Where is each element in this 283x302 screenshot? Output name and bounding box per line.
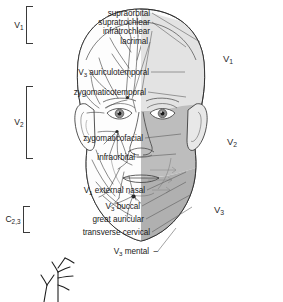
label-great-auricular-text: great auricular — [92, 215, 144, 224]
label-zygomaticofacial-text: zygomaticofacial — [83, 134, 143, 143]
label-external-nasal: V1 external nasal — [0, 186, 145, 195]
label-zygomaticotemporal: zygomaticotemporal — [0, 88, 146, 97]
label-auriculotemporal: V3 auriculotemporal — [0, 68, 149, 77]
label-lacrimal: lacrimal — [0, 37, 148, 46]
label-buccal-prefix: V3 — [106, 202, 115, 211]
label-transverse-cervical-text: transverse cervical — [83, 228, 150, 237]
label-mental-prefix: V3 — [114, 247, 123, 256]
label-infraorbital-text: infraorbital — [97, 153, 135, 162]
label-supraorbital: supraorbital — [0, 9, 150, 18]
label-mental-dash: – — [151, 247, 158, 256]
label-external-nasal-text: external nasal — [95, 186, 145, 195]
region-tag-v2-sub: 2 — [233, 141, 237, 148]
label-zygomaticotemporal-text: zygomaticotemporal — [74, 88, 146, 97]
label-supratrochlear-text: supratrochlear — [98, 18, 150, 27]
bracket-tag-v2: V2 — [14, 117, 26, 127]
label-mental-text: mental — [125, 247, 149, 256]
label-mental: V3 mental – — [0, 247, 158, 256]
bracket-tag-v2-sub: 2 — [20, 121, 24, 128]
region-tag-v1: V1 — [223, 53, 233, 64]
label-infratrochlear-text: infratrochlear — [103, 27, 150, 36]
label-zygomaticofacial: zygomaticofacial — [0, 134, 143, 143]
label-auriculotemporal-prefix: V3 — [78, 68, 87, 77]
label-great-auricular: great auricular — [0, 215, 144, 224]
region-v1-fill — [141, 10, 206, 111]
ear-right — [187, 104, 207, 151]
label-supratrochlear: supratrochlear — [0, 18, 150, 27]
region-tag-v1-sub: 1 — [229, 58, 233, 65]
label-infratrochlear: infratrochlear — [0, 27, 150, 36]
label-buccal: V3 buccal — [0, 202, 140, 211]
region-tag-v3: V3 — [214, 204, 224, 215]
bracket-v2 — [26, 86, 33, 159]
ear-left — [75, 104, 95, 151]
region-tag-v2: V2 — [227, 136, 237, 147]
label-external-nasal-prefix: V1 — [84, 186, 93, 195]
label-buccal-text: buccal — [117, 202, 140, 211]
label-transverse-cervical: transverse cervical — [0, 228, 150, 237]
label-auriculotemporal-text: auriculotemporal — [89, 68, 149, 77]
label-lacrimal-text: lacrimal — [120, 37, 148, 46]
label-supraorbital-text: supraorbital — [108, 9, 150, 18]
region-tag-v3-sub: 3 — [220, 209, 224, 216]
figure-canvas: V1 V2 C2,3 supraorbital supratrochlear i… — [0, 0, 283, 302]
label-infraorbital: infraorbital — [0, 153, 135, 162]
